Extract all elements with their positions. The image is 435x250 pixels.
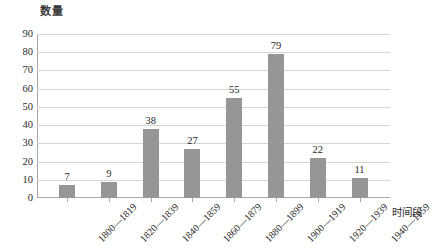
- gridline: [37, 52, 390, 53]
- x-axis-tick-mark: [151, 198, 152, 202]
- bar-value-label: 38: [134, 116, 168, 126]
- y-axis-tick-label: 40: [9, 120, 33, 130]
- bar: [184, 149, 200, 198]
- y-axis-tick-label: 20: [9, 157, 33, 167]
- gridline: [37, 70, 390, 71]
- x-axis-tick-label: 1820—1839: [137, 201, 180, 244]
- x-axis-tick-label: 1860—1879: [221, 201, 264, 244]
- gridline: [37, 162, 390, 163]
- plot-area: [37, 34, 390, 198]
- y-axis-tick-label: 80: [9, 47, 33, 57]
- gridline: [37, 107, 390, 108]
- x-axis-tick-mark: [360, 198, 361, 202]
- x-axis-tick-label: 1900—1919: [305, 201, 348, 244]
- bar: [59, 185, 75, 198]
- x-axis-tick-mark: [276, 198, 277, 202]
- bar-value-label: 55: [217, 85, 251, 95]
- x-axis-tick-label: 1920—1939: [346, 201, 389, 244]
- bar: [101, 182, 117, 198]
- x-axis-tick-mark: [234, 198, 235, 202]
- bar: [268, 54, 284, 198]
- bar-value-label: 79: [259, 41, 293, 51]
- y-axis-tick-label: 60: [9, 84, 33, 94]
- y-axis-tick-label: 0: [9, 193, 33, 203]
- y-axis-line: [37, 34, 38, 198]
- bar-value-label: 27: [175, 136, 209, 146]
- bar-value-label: 22: [301, 145, 335, 155]
- x-axis-tick-mark: [318, 198, 319, 202]
- bar: [352, 178, 368, 198]
- bar-value-label: 11: [343, 165, 377, 175]
- x-axis-tick-label: 1880—1899: [263, 201, 306, 244]
- x-axis-tick-label: 1840—1859: [179, 201, 222, 244]
- bar: [143, 129, 159, 198]
- bar-value-label: 9: [92, 169, 126, 179]
- y-axis-tick-label: 50: [9, 102, 33, 112]
- bar: [226, 98, 242, 198]
- x-axis-tick-label: 1800—1819: [96, 201, 139, 244]
- x-axis-tick-mark: [109, 198, 110, 202]
- gridline: [37, 89, 390, 90]
- y-axis-tick-label: 30: [9, 138, 33, 148]
- x-axis-tick-mark: [192, 198, 193, 202]
- x-axis-line: [37, 197, 390, 198]
- y-axis-tick-label: 90: [9, 29, 33, 39]
- gridline: [37, 143, 390, 144]
- bar-chart: 数量 时间段 010203040506070809071800—18199182…: [0, 0, 435, 250]
- gridline: [37, 180, 390, 181]
- bar-value-label: 7: [50, 172, 84, 182]
- gridline: [37, 34, 390, 35]
- y-axis-tick-label: 70: [9, 65, 33, 75]
- bar: [310, 158, 326, 198]
- y-axis-title: 数量: [40, 2, 64, 18]
- y-axis-tick-label: 10: [9, 175, 33, 185]
- gridline: [37, 125, 390, 126]
- x-axis-tick-mark: [67, 198, 68, 202]
